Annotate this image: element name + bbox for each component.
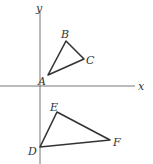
y-axis-label: y: [35, 2, 43, 15]
vertex-label-f: F: [112, 136, 121, 149]
x-axis-label: x: [138, 80, 145, 93]
triangle-def: [40, 112, 110, 147]
vertex-label-b: B: [60, 28, 69, 41]
vertex-label-c: C: [86, 54, 95, 67]
vertex-label-a: A: [37, 75, 46, 88]
coordinate-diagram: y x A B C D E F: [0, 0, 153, 164]
triangle-abc: [48, 41, 84, 75]
vertex-label-e: E: [49, 101, 58, 114]
vertex-label-d: D: [27, 145, 37, 158]
